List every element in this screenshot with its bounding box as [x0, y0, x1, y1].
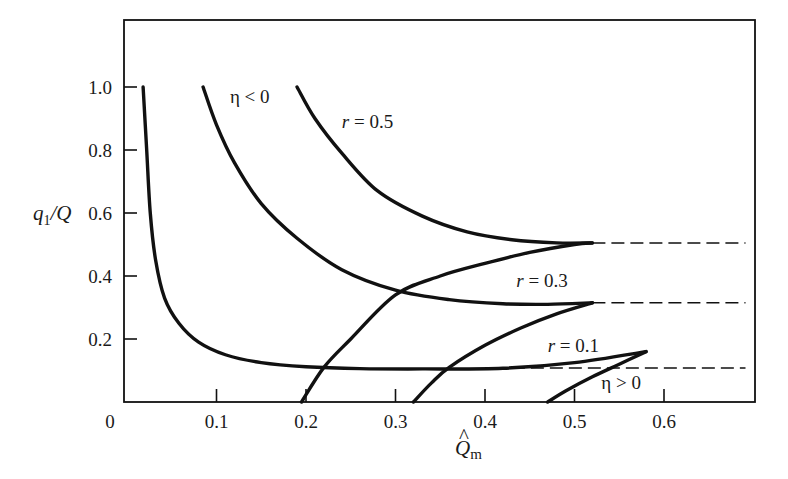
plot-frame [124, 20, 755, 402]
annotation: r = 0.5 [342, 111, 393, 132]
plot-border [124, 20, 755, 402]
annotation: r = 0.3 [516, 270, 567, 291]
x-tick-label: 0.6 [652, 411, 676, 432]
y-tick-label: 0.8 [88, 140, 112, 161]
origin-label: 0 [105, 411, 115, 432]
x-tick-label: 0.2 [294, 411, 318, 432]
annotations: η < 0r = 0.5r = 0.3r = 0.1η > 0 [230, 86, 641, 394]
x-tick-label: 0.4 [473, 411, 497, 432]
y-tick-label: 0.6 [88, 203, 112, 224]
y-tick-label: 0.4 [88, 266, 112, 287]
y-axis-label: q1/Q [33, 201, 72, 228]
curves [143, 87, 745, 402]
x-tick-label: 0.1 [205, 411, 229, 432]
annotation: η < 0 [230, 86, 270, 107]
x-tick-label: 0.3 [384, 411, 408, 432]
y-tick-label: 1.0 [88, 77, 112, 98]
chart: 0.20.40.60.81.00.10.20.30.40.50.60 η < 0… [0, 0, 788, 479]
y-tick-label: 0.2 [88, 329, 112, 350]
annotation: η > 0 [601, 372, 641, 393]
x-axis-label-hat: ^ [459, 424, 469, 448]
x-tick-label: 0.5 [563, 411, 587, 432]
curve [302, 243, 593, 402]
annotation: r = 0.1 [548, 335, 599, 356]
